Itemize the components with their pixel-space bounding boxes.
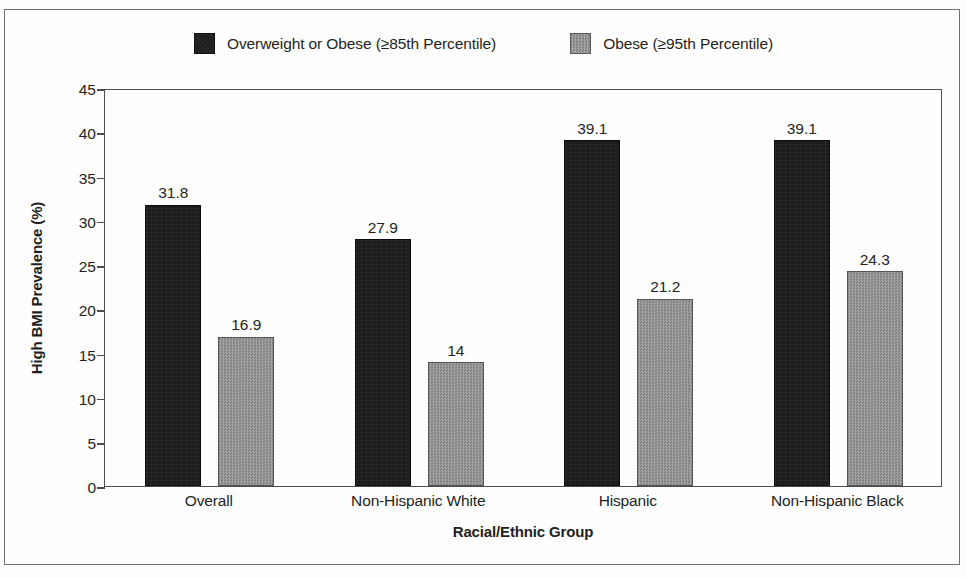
legend-swatch-dark-icon <box>194 33 215 54</box>
x-axis-tick-label: Non-Hispanic White <box>351 492 485 510</box>
y-axis-tick-mark <box>97 133 105 135</box>
bar[interactable]: 31.8 <box>145 205 201 486</box>
y-axis-tick-mark <box>97 178 105 180</box>
bar-value-label: 27.9 <box>368 220 398 236</box>
y-axis-tick-mark <box>97 399 105 401</box>
y-axis-tick-mark <box>97 310 105 312</box>
y-axis-tick-mark <box>97 266 105 268</box>
bar[interactable]: 21.2 <box>637 299 693 487</box>
chart-legend: Overweight or Obese (≥85th Percentile) O… <box>0 33 967 54</box>
bar[interactable]: 27.9 <box>355 239 411 486</box>
bars-layer: 31.816.927.91439.121.239.124.3 <box>105 90 941 486</box>
legend-swatch-gray-icon <box>570 33 591 54</box>
bar-value-label: 16.9 <box>231 317 261 333</box>
plot-area: 051015202530354045 31.816.927.91439.121.… <box>104 89 942 487</box>
bar-group: 39.121.2 <box>564 90 693 486</box>
bar[interactable]: 39.1 <box>564 140 620 486</box>
legend-entry-obese: Obese (≥95th Percentile) <box>570 33 773 54</box>
legend-label-overweight-or-obese: Overweight or Obese (≥85th Percentile) <box>227 35 496 53</box>
bar[interactable]: 16.9 <box>218 337 274 486</box>
y-axis-tick-mark <box>97 487 105 489</box>
legend-label-obese: Obese (≥95th Percentile) <box>603 35 773 53</box>
x-axis-tick-label: Non-Hispanic Black <box>771 492 904 510</box>
bar-value-label: 21.2 <box>650 279 680 295</box>
x-axis-tick-label: Hispanic <box>599 492 657 510</box>
bar[interactable]: 24.3 <box>847 271 903 486</box>
bar[interactable]: 39.1 <box>774 140 830 486</box>
bar-group: 31.816.9 <box>145 90 274 486</box>
bar-group: 39.124.3 <box>774 90 903 486</box>
y-axis-tick-mark <box>97 443 105 445</box>
bar-value-label: 14 <box>447 343 464 359</box>
y-axis-tick-mark <box>97 89 105 91</box>
x-axis-title: Racial/Ethnic Group <box>104 523 942 540</box>
bar[interactable]: 14 <box>428 362 484 486</box>
bar-value-label: 39.1 <box>577 121 607 137</box>
y-axis-title: High BMI Prevalence (%) <box>26 89 46 487</box>
y-axis-tick-mark <box>97 222 105 224</box>
bar-group: 27.914 <box>355 90 484 486</box>
bar-value-label: 31.8 <box>158 185 188 201</box>
y-axis-tick-mark <box>97 355 105 357</box>
x-axis-tick-label: Overall <box>185 492 233 510</box>
legend-entry-overweight-or-obese: Overweight or Obese (≥85th Percentile) <box>194 33 496 54</box>
bar-value-label: 24.3 <box>860 252 890 268</box>
bar-value-label: 39.1 <box>787 121 817 137</box>
x-axis-tick-labels: OverallNon-Hispanic WhiteHispanicNon-His… <box>104 492 942 516</box>
